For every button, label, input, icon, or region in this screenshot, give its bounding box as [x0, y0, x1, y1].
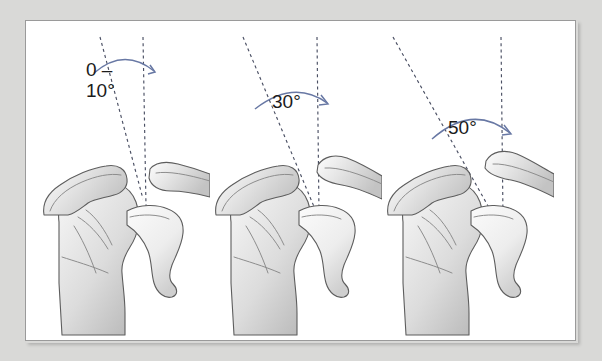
glenoid-scapula: [299, 205, 355, 297]
panel-angle-50: 50°: [370, 21, 554, 341]
panel-angle-30: 30°: [198, 21, 382, 341]
glenoid-scapula: [471, 205, 527, 297]
angle-label-0-10: 0 – 10°: [86, 59, 115, 101]
panel-angle-0-10: 0 – 10°: [26, 21, 210, 341]
angle-label-30: 30°: [272, 91, 301, 112]
reference-line-vertical: [317, 37, 319, 213]
figure-canvas: 0 – 10°: [0, 0, 602, 361]
clavicle: [485, 151, 554, 197]
glenoid-scapula: [127, 205, 183, 297]
angle-label-50: 50°: [448, 117, 477, 138]
panel-2-illustration: [370, 21, 554, 341]
reference-line-vertical: [143, 37, 146, 206]
panel-0-illustration: [26, 21, 210, 341]
figure-frame: 0 – 10°: [25, 20, 576, 341]
panel-1-illustration: [198, 21, 382, 341]
